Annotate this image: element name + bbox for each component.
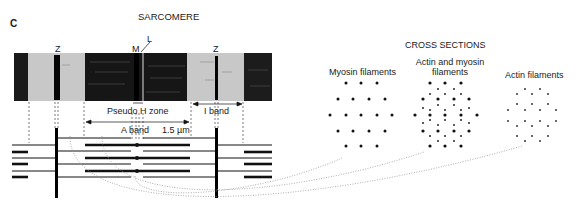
actin-myosin-cross-section — [413, 81, 478, 147]
sarcomere-diagram — [0, 0, 576, 224]
actin-filaments-label: Actin filaments — [505, 70, 564, 80]
myosin-filaments-label: Myosin filaments — [329, 67, 396, 77]
a-band-label: A band — [121, 125, 149, 135]
filament-schematic — [12, 128, 272, 198]
actin-cross-section — [507, 88, 557, 142]
pseudo-h-zone-label: Pseudo H zone — [107, 106, 169, 116]
actin-myosin-label-line2: filaments — [410, 67, 490, 77]
actin-myosin-label-line1: Actin and myosin — [410, 57, 490, 67]
scale-label: 1.5 µm — [162, 125, 190, 135]
cross-sections-title: CROSS SECTIONS — [405, 40, 486, 50]
electron-micrograph — [14, 42, 272, 101]
i-band-label: I band — [204, 106, 229, 116]
myosin-cross-section — [329, 82, 394, 148]
actin-myosin-filaments-label: Actin and myosin filaments — [410, 57, 490, 77]
